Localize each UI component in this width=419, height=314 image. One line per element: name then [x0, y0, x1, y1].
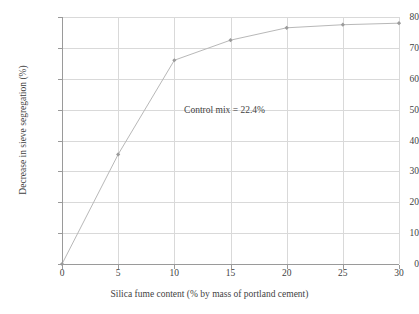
data-point-marker	[228, 38, 232, 42]
y-tick-mark-20	[58, 202, 62, 203]
x-tick-label-25: 25	[323, 268, 363, 279]
x-tick-label-5: 5	[98, 268, 138, 279]
y-tick-label-30: 30	[365, 166, 419, 176]
plot-area	[62, 17, 399, 264]
data-point-marker	[341, 23, 345, 27]
y-axis-title: Decrease in sieve segregation (%)	[17, 10, 29, 250]
chart-annotation: Control mix = 22.4%	[184, 104, 265, 116]
y-tick-label-80: 80	[365, 12, 419, 22]
y-tick-mark-50	[58, 110, 62, 111]
series-line-0	[62, 23, 399, 264]
y-tick-label-70: 70	[365, 43, 419, 53]
x-tick-label-15: 15	[211, 268, 251, 279]
y-tick-label-40: 40	[365, 136, 419, 146]
y-tick-mark-80	[58, 17, 62, 18]
y-tick-label-20: 20	[365, 197, 419, 207]
data-point-marker	[172, 58, 176, 62]
y-tick-mark-70	[58, 48, 62, 49]
x-axis-title: Silica fume content (% by mass of portla…	[0, 288, 419, 300]
series-line-and-markers	[62, 17, 399, 264]
data-point-marker	[116, 152, 120, 156]
x-tick-label-0: 0	[42, 268, 82, 279]
y-tick-mark-30	[58, 171, 62, 172]
y-tick-mark-60	[58, 79, 62, 80]
x-tick-label-10: 10	[154, 268, 194, 279]
y-axis-line	[62, 17, 63, 265]
x-tick-label-30: 30	[379, 268, 419, 279]
chart-figure: 01020304050607080 051015202530 Control m…	[0, 0, 419, 314]
y-tick-label-10: 10	[365, 228, 419, 238]
data-point-marker	[285, 26, 289, 30]
y-tick-label-50: 50	[365, 105, 419, 115]
x-tick-label-20: 20	[267, 268, 307, 279]
y-tick-label-60: 60	[365, 74, 419, 84]
y-tick-mark-40	[58, 141, 62, 142]
y-tick-mark-10	[58, 233, 62, 234]
